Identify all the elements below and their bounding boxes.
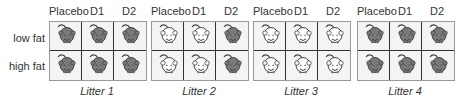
litter-grid [49,21,147,81]
litter-label: Litter 4 [357,85,453,97]
white-mouse-icon [290,22,314,50]
column-header-d1: D1 [285,5,317,17]
column-header-d1: D1 [389,5,421,17]
row-label-low-fat: low fat [0,32,45,44]
column-headers: PlaceboD1D2 [253,5,349,17]
grid-cell [422,51,454,80]
dark-mouse-icon [394,22,418,50]
dark-mouse-icon [86,22,110,50]
column-headers: PlaceboD1D2 [151,5,247,17]
dark-mouse-icon [220,52,244,80]
white-mouse-icon [258,52,282,80]
grid-cell [82,22,114,51]
grid-cell [390,22,422,51]
litter-grid [357,21,455,81]
grid-cell [114,22,146,51]
grid-cell [82,51,114,80]
grid-cell [184,51,216,80]
litter-grid [253,21,351,81]
dark-mouse-icon [394,52,418,80]
grid-cell [390,51,422,80]
column-header-placebo: Placebo [253,5,285,17]
grid-cell [358,51,390,80]
grid-cell [254,51,286,80]
litter-label: Litter 2 [151,85,247,97]
dark-mouse-icon [54,52,78,80]
grid-cell [50,51,82,80]
column-header-d1: D1 [183,5,215,17]
column-headers: PlaceboD1D2 [357,5,453,17]
white-mouse-icon [156,22,180,50]
column-header-d2: D2 [317,5,349,17]
litter-grid [151,21,249,81]
dark-mouse-icon [362,22,386,50]
grid-cell [184,22,216,51]
column-header-placebo: Placebo [357,5,389,17]
column-header-placebo: Placebo [49,5,81,17]
dark-mouse-icon [362,52,386,80]
column-header-d2: D2 [113,5,145,17]
grid-cell [114,51,146,80]
grid-cell [318,22,350,51]
litter-label: Litter 1 [49,85,145,97]
column-headers: PlaceboD1D2 [49,5,145,17]
white-mouse-icon [188,52,212,80]
white-mouse-icon [322,22,346,50]
dark-mouse-icon [118,22,142,50]
grid-cell [254,22,286,51]
white-mouse-icon [322,52,346,80]
row-label-high-fat: high fat [0,60,45,72]
dark-mouse-icon [118,52,142,80]
white-mouse-icon [258,22,282,50]
grid-cell [358,22,390,51]
column-header-d1: D1 [81,5,113,17]
litter-label: Litter 3 [253,85,349,97]
dark-mouse-icon [54,22,78,50]
column-header-placebo: Placebo [151,5,183,17]
grid-cell [286,51,318,80]
grid-cell [318,51,350,80]
white-mouse-icon [156,52,180,80]
grid-cell [422,22,454,51]
column-header-d2: D2 [215,5,247,17]
grid-cell [152,22,184,51]
dark-mouse-icon [220,22,244,50]
white-mouse-icon [188,22,212,50]
column-header-d2: D2 [421,5,453,17]
grid-cell [286,22,318,51]
grid-cell [216,22,248,51]
grid-cell [50,22,82,51]
white-mouse-icon [290,52,314,80]
grid-cell [152,51,184,80]
grid-cell [216,51,248,80]
dark-mouse-icon [426,22,450,50]
dark-mouse-icon [86,52,110,80]
dark-mouse-icon [426,52,450,80]
